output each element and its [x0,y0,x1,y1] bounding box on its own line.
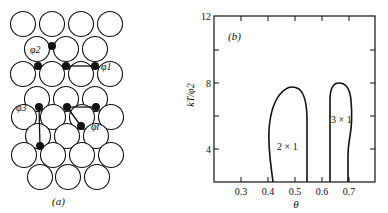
x-ticks [241,16,349,182]
y-tick-labels: 4 8 12 [201,11,211,155]
panel-a-lattice [11,12,124,190]
svg-text:4: 4 [206,144,211,155]
svg-text:0.5: 0.5 [289,186,302,197]
phase-boundary-3x1 [330,83,352,182]
label-phi1: φ1 [101,61,112,72]
panel-a-label: (a) [52,195,65,208]
label-phit: φt [91,121,100,132]
x-axis-label: θ [293,198,299,210]
panel-b-label: (b) [228,30,241,43]
svg-text:0.6: 0.6 [316,186,329,197]
x-tick-labels: 0.3 0.4 0.5 0.6 0.7 [235,186,356,197]
label-phi2: φ2 [30,44,41,55]
region-label-2x1: 2 × 1 [277,141,298,152]
svg-text:8: 8 [206,78,211,89]
svg-text:0.7: 0.7 [343,186,356,197]
panel-b-plot: 0.3 0.4 0.5 0.6 0.7 4 8 12 θ kT/φ2 (b) 2… [185,11,375,210]
y-axis-label: kT/φ2 [185,83,196,106]
svg-text:0.3: 0.3 [235,186,248,197]
phase-boundary-2x1 [269,87,307,182]
label-phi3: φ3 [16,102,27,113]
figure: φ2 φ1 φ3 φt (a) 0.3 0.4 0.5 0 [0,0,388,213]
region-label-3x1: 3 × 1 [331,114,352,125]
svg-text:0.4: 0.4 [262,186,275,197]
svg-text:12: 12 [201,11,211,22]
